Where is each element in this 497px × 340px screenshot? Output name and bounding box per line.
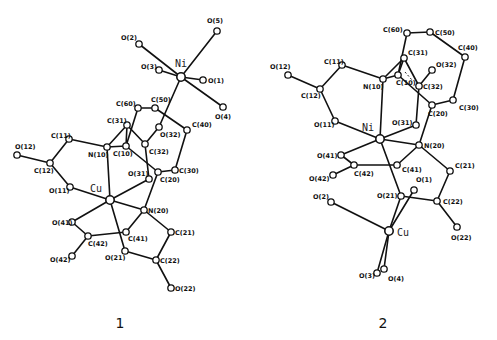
atom-label-s2-c10: C(10) bbox=[396, 79, 416, 87]
atom-s1-c30 bbox=[172, 167, 178, 173]
atom-s1-c22 bbox=[153, 257, 159, 263]
atom-label-s1-o3: O(3) bbox=[141, 63, 157, 71]
atom-s2-c10 bbox=[395, 72, 401, 78]
bond-s1-ni-o5 bbox=[181, 31, 217, 77]
atom-label-s1-c60: C(60) bbox=[116, 100, 136, 108]
atom-label-s1-ni: Ni bbox=[175, 58, 187, 69]
atom-s2-ni bbox=[376, 135, 384, 143]
atom-label-s1-o31: O(31) bbox=[128, 170, 149, 178]
atom-s1-c40 bbox=[184, 127, 190, 133]
atom-s2-c41 bbox=[394, 162, 400, 168]
bond-s1-c21-c22 bbox=[156, 232, 171, 260]
bond-s1-cu-o31 bbox=[110, 179, 149, 200]
bond-s2-c22-o21 bbox=[401, 196, 437, 201]
atom-s2-n10 bbox=[380, 76, 386, 82]
atom-label-s2-c22: C(22) bbox=[443, 198, 463, 206]
atom-label-s1-o4: O(4) bbox=[215, 113, 231, 121]
atom-label-s1-c21: C(21) bbox=[175, 229, 195, 237]
atom-s1-o5 bbox=[214, 28, 220, 34]
atom-s1-c20 bbox=[155, 169, 161, 175]
bond-s2-c60-c10 bbox=[398, 33, 407, 75]
atom-label-s2-o2: O(2) bbox=[313, 193, 329, 201]
atom-s1-c12 bbox=[47, 160, 53, 166]
atom-label-s2-c50: C(50) bbox=[435, 29, 455, 37]
bond-s2-ni-n20 bbox=[380, 139, 419, 145]
atom-label-s2-o31: O(31) bbox=[392, 119, 413, 127]
atom-s2-o41 bbox=[338, 152, 344, 158]
atom-label-s2-o32: O(32) bbox=[436, 61, 457, 69]
atom-label-s2-c12: C(12) bbox=[301, 92, 321, 100]
atom-label-s2-o4: O(4) bbox=[388, 275, 404, 283]
atom-s2-c22 bbox=[434, 198, 440, 204]
bond-s2-c12-o11 bbox=[320, 89, 335, 121]
atom-label-s2-c20: C(20) bbox=[428, 110, 448, 118]
atom-s1-o22 bbox=[168, 285, 174, 291]
bond-s2-n20-c41 bbox=[397, 145, 419, 165]
atom-label-s1-o11: O(11) bbox=[49, 187, 70, 195]
atom-s1-o32 bbox=[156, 124, 162, 130]
bond-s2-o2-cu bbox=[331, 202, 389, 231]
atom-s2-c20 bbox=[429, 102, 435, 108]
atom-s1-n10 bbox=[104, 144, 110, 150]
atom-label-s1-c41: C(41) bbox=[128, 235, 148, 243]
atom-s1-c42 bbox=[85, 233, 91, 239]
atom-s2-c40 bbox=[462, 54, 468, 60]
atom-label-s1-o5: O(5) bbox=[207, 17, 223, 25]
atom-label-s2-o41: O(41) bbox=[317, 152, 338, 160]
atom-s2-c31 bbox=[401, 55, 407, 61]
atom-s1-c32 bbox=[142, 141, 148, 147]
atom-label-s1-c30: C(30) bbox=[179, 167, 199, 175]
atom-label-s2-o42: O(42) bbox=[309, 175, 330, 183]
structure-1-caption: 1 bbox=[116, 315, 125, 331]
atom-s1-cu bbox=[106, 196, 114, 204]
atom-s2-o32 bbox=[429, 67, 435, 73]
atom-label-s1-n10: N(10) bbox=[88, 151, 108, 159]
bond-s2-ni-o31 bbox=[380, 125, 416, 139]
atom-label-s1-c40: C(40) bbox=[192, 121, 212, 129]
atom-s1-c21 bbox=[168, 229, 174, 235]
atom-label-s1-c20: C(20) bbox=[160, 176, 180, 184]
bond-s2-c21-c22 bbox=[437, 171, 450, 201]
atom-s2-c30 bbox=[450, 97, 456, 103]
atom-s2-c50 bbox=[427, 29, 433, 35]
atom-label-s2-c42: C(42) bbox=[354, 170, 374, 178]
atom-s2-o42 bbox=[330, 172, 336, 178]
bond-s1-n10-c11 bbox=[69, 139, 107, 147]
atom-label-s1-o42: O(42) bbox=[50, 256, 71, 264]
atom-s1-ni bbox=[177, 73, 185, 81]
bond-s1-cu-n20 bbox=[110, 200, 144, 210]
atom-label-s1-c22: C(22) bbox=[160, 257, 180, 265]
atom-s2-c60 bbox=[404, 30, 410, 36]
structure-2-caption: 2 bbox=[379, 315, 388, 331]
atom-label-s1-o22: O(22) bbox=[175, 285, 196, 293]
atom-label-s2-c40: C(40) bbox=[458, 44, 478, 52]
atom-s2-c21 bbox=[447, 168, 453, 174]
atom-label-s1-n20: N(20) bbox=[148, 207, 168, 215]
atom-s2-c42 bbox=[351, 162, 357, 168]
atom-label-s2-o21: O(21) bbox=[377, 192, 398, 200]
bond-s1-c11-c12 bbox=[50, 139, 69, 163]
bond-s1-cu-o21 bbox=[110, 200, 125, 251]
atom-label-s2-c60: C(60) bbox=[383, 26, 403, 34]
atom-label-s1-o12: O(12) bbox=[15, 143, 36, 151]
atom-label-s2-c11: C(11) bbox=[324, 58, 344, 66]
atom-s2-o4 bbox=[381, 266, 387, 272]
atom-label-s1-c31: C(31) bbox=[107, 117, 127, 125]
bond-s2-n10-c11 bbox=[342, 65, 383, 79]
atom-label-s2-c30: C(30) bbox=[459, 104, 479, 112]
atom-s1-o1 bbox=[200, 77, 206, 83]
atom-label-s1-c12: C(12) bbox=[34, 167, 54, 175]
atom-s2-n20 bbox=[416, 142, 422, 148]
atom-label-s2-o1: O(1) bbox=[416, 176, 432, 184]
atom-s2-o12 bbox=[285, 72, 291, 78]
bond-s2-c11-c12 bbox=[320, 65, 342, 89]
atom-label-s1-o1: O(1) bbox=[208, 77, 224, 85]
atom-label-s2-c41: C(41) bbox=[402, 166, 422, 174]
bond-s2-c12-o12 bbox=[288, 75, 320, 89]
atom-s2-o21 bbox=[398, 193, 404, 199]
atom-s2-cu bbox=[385, 227, 393, 235]
bond-s1-c22-o21 bbox=[125, 251, 156, 260]
atom-label-s1-o2: O(2) bbox=[121, 34, 137, 42]
atom-label-s2-o12: O(12) bbox=[270, 63, 291, 71]
atom-s1-n20 bbox=[141, 207, 147, 213]
